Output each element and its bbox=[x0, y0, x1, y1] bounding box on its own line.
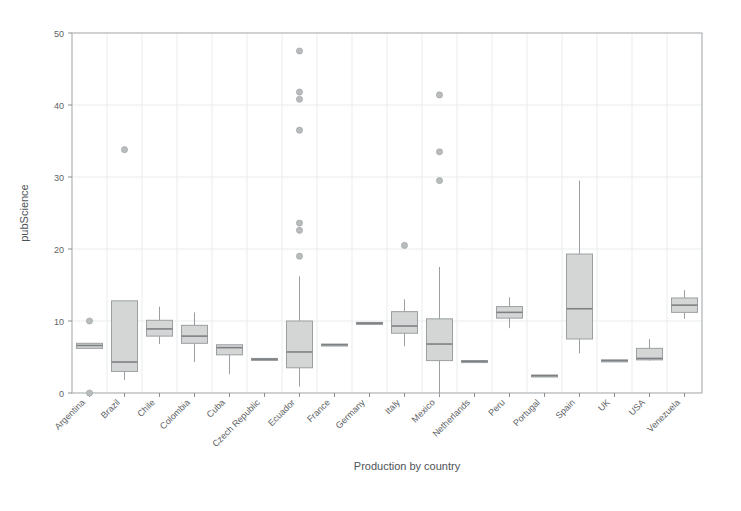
box-plot-item bbox=[532, 375, 558, 377]
x-category-label: Ecuador bbox=[266, 397, 297, 428]
y-tick-label: 20 bbox=[54, 245, 64, 255]
box-plot-item bbox=[112, 147, 138, 381]
outlier-point bbox=[296, 227, 302, 233]
box-plot-item bbox=[392, 242, 418, 346]
outlier-point bbox=[296, 48, 302, 54]
outlier-point bbox=[296, 253, 302, 259]
x-category-label: Peru bbox=[486, 397, 507, 418]
outlier-point bbox=[86, 318, 92, 324]
x-category-labels: ArgentinaBrazilChileColombiaCubaCzech Re… bbox=[53, 397, 682, 449]
y-tick-label: 50 bbox=[54, 29, 64, 39]
x-category-label: Portugal bbox=[511, 397, 542, 428]
y-tick-label: 10 bbox=[54, 317, 64, 327]
x-category-label: Colombia bbox=[158, 397, 192, 431]
x-category-label: Cuba bbox=[205, 397, 227, 419]
y-tick-label: 30 bbox=[54, 173, 64, 183]
box-iqr bbox=[427, 319, 453, 361]
outlier-point bbox=[121, 147, 127, 153]
x-category-label: Netherlands bbox=[431, 397, 473, 439]
outlier-point bbox=[436, 178, 442, 184]
outlier-point bbox=[296, 127, 302, 133]
x-category-label: Venezuela bbox=[645, 397, 682, 434]
box-plot-item bbox=[462, 361, 488, 363]
gridlines bbox=[72, 33, 702, 393]
x-category-label: Argentina bbox=[53, 397, 87, 431]
box-plot-item bbox=[182, 312, 208, 362]
box-plot-item bbox=[77, 318, 103, 396]
x-category-label: UK bbox=[596, 397, 612, 413]
outlier-point bbox=[401, 242, 407, 248]
boxplot-chart: 01020304050 ArgentinaBrazilChileColombia… bbox=[0, 0, 741, 511]
box-plot-item bbox=[497, 297, 523, 328]
outlier-point bbox=[86, 390, 92, 396]
box-plot-item bbox=[322, 344, 348, 346]
x-category-label: Brazil bbox=[99, 397, 122, 420]
box-iqr bbox=[112, 301, 138, 372]
box-iqr bbox=[392, 312, 418, 334]
outlier-point bbox=[296, 220, 302, 226]
plot-canvas: 01020304050 ArgentinaBrazilChileColombia… bbox=[0, 0, 741, 511]
outlier-point bbox=[436, 92, 442, 98]
y-axis-title: pubScience bbox=[18, 184, 30, 242]
box-plot-item bbox=[602, 360, 628, 362]
box-iqr bbox=[567, 254, 593, 339]
box-plot-item bbox=[357, 322, 383, 324]
x-category-label: Germany bbox=[334, 397, 368, 431]
x-category-label: Chile bbox=[135, 397, 157, 419]
y-tick-label: 40 bbox=[54, 101, 64, 111]
x-category-label: Italy bbox=[383, 397, 402, 416]
box-plot-item bbox=[217, 345, 243, 375]
box-iqr bbox=[217, 345, 243, 355]
box-plot-item bbox=[637, 339, 663, 361]
y-tick-label: 0 bbox=[59, 389, 64, 399]
box-plot-item bbox=[672, 290, 698, 319]
x-axis-ticks bbox=[90, 393, 685, 397]
x-axis-title: Production by country bbox=[354, 460, 461, 472]
box-iqr bbox=[182, 325, 208, 343]
x-category-label: France bbox=[305, 397, 332, 424]
outlier-point bbox=[296, 89, 302, 95]
y-axis-ticks: 01020304050 bbox=[54, 29, 72, 399]
x-category-label: USA bbox=[627, 397, 647, 417]
box-plot-item bbox=[567, 181, 593, 354]
x-category-label: Mexico bbox=[410, 397, 437, 424]
box-plot-item bbox=[147, 307, 173, 344]
box-plot-item bbox=[427, 92, 453, 395]
outlier-point bbox=[296, 96, 302, 102]
x-category-label: Spain bbox=[554, 397, 577, 420]
box-iqr bbox=[287, 321, 313, 368]
box-plot-item bbox=[252, 358, 278, 360]
outlier-point bbox=[436, 149, 442, 155]
box-plot-item bbox=[287, 48, 313, 387]
